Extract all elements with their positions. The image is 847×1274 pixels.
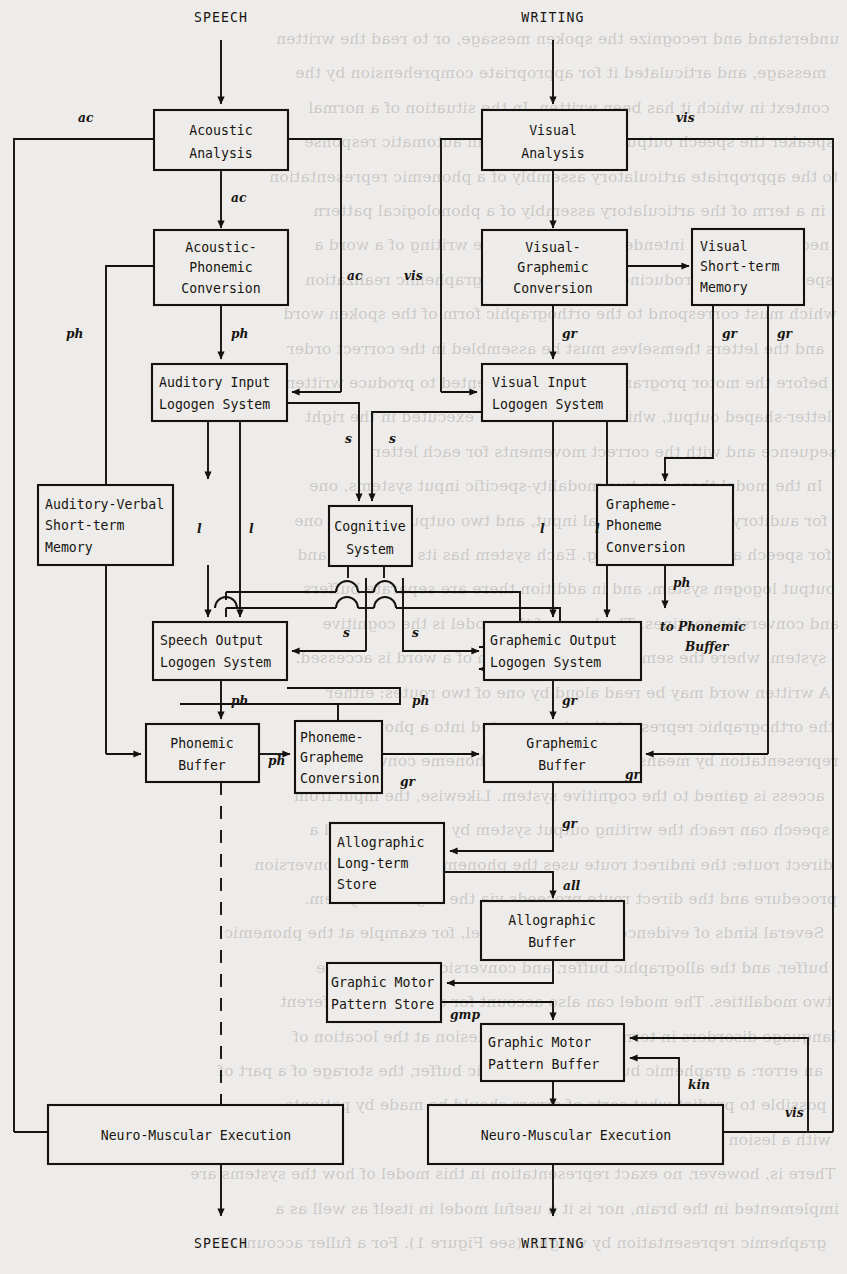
box-graphic-motor-pattern-store: Graphic Motor Pattern Store [327,963,441,1022]
label-writing-output: WRITING [521,1236,584,1251]
edge-allographic-buffer-to-gmp-store [447,960,553,983]
edge-vstm-to-gpc [665,305,713,481]
box-label: Phonemic [189,260,253,275]
edge-label-ph-aux: ph [66,327,83,341]
edge-label-gr-gb-down: gr [562,817,579,831]
box-label: Memory [700,280,748,295]
box-label: Logogen System [160,655,271,670]
box-label: Grapheme- [606,497,677,512]
edge-label-gr-go-out: gr [562,694,579,708]
box-label: Graphemic [517,260,588,275]
box-graphemic-output-logogen-system: Graphemic Output Logogen System [484,622,641,680]
box-label: Graphemic [526,736,597,751]
box-label: Store [337,877,377,892]
box-label: Allographic [508,913,595,928]
edge-auditory-s-to-cognitive [287,403,359,501]
box-neuro-muscular-execution-writing: Neuro-Muscular Execution [428,1105,723,1164]
edge-label-l-3: l [540,522,545,536]
edge-label-to-phonemic: to Phonemic [660,620,746,634]
edge-vis-left-rail [441,139,482,392]
box-graphic-motor-pattern-buffer: Graphic Motor Pattern Buffer [481,1024,624,1081]
box-label: Grapheme [300,750,364,765]
edge-label-gr-vstm-in: gr [625,768,642,782]
box-label: Short-term [700,259,779,274]
box-label: Acoustic [189,123,253,138]
label-writing-input: WRITING [521,10,584,25]
box-label: Buffer [178,758,226,773]
box-label: Visual [529,123,577,138]
edge-label-ph-gpc-out: ph [673,576,690,590]
box-label: Analysis [189,146,253,161]
hop-lower-2 [374,597,396,608]
edge-label-s-right-dn: s [412,626,419,640]
box-label: Phonemic [170,736,234,751]
box-label: System [346,542,394,557]
edge-s-to-graphemic-output [403,578,479,651]
edge-label-all: all [563,879,581,893]
box-visual-input-logogen-system: Visual Input Logogen System [482,364,627,421]
edge-label-vis-mid: vis [404,269,423,283]
edge-label-ph-top-right: ph [412,694,429,708]
box-label: Conversion [181,281,260,296]
box-acoustic-analysis: Acoustic Analysis [154,110,288,170]
box-label: Pattern Store [331,997,434,1012]
box-visual-analysis: Visual Analysis [482,110,627,170]
box-label: Neuro-Muscular Execution [101,1128,292,1143]
box-label: Phoneme [606,518,662,533]
box-acoustic-phonemic-conversion: Acoustic- Phonemic Conversion [154,230,288,305]
box-allographic-long-term-store: Allographic Long-term Store [330,823,444,903]
edge-label-ac-down1: ac [231,191,247,205]
box-label: Logogen System [159,397,270,412]
label-speech-output: SPEECH [194,1236,248,1251]
box-label: Conversion [606,540,685,555]
box-label: Speech Output [160,633,263,648]
edge-label-l-1: l [197,522,202,536]
edge-label-s-left-dn: s [343,626,350,640]
box-label: Logogen System [492,397,603,412]
box-label: Auditory Input [159,375,270,390]
box-label: Allographic [337,835,424,850]
box-label: Auditory-Verbal [45,497,164,512]
edge-label-ac-left: ac [78,111,94,125]
box-phonemic-buffer: Phonemic Buffer [146,724,259,782]
box-cognitive-system: Cognitive System [329,506,412,566]
box-auditory-verbal-short-term-memory: Auditory-Verbal Short-term Memory [38,485,173,565]
box-label: Acoustic- [185,240,256,255]
edge-label-vis-bottom: vis [785,1106,804,1120]
edge-ac-left-rail [14,139,154,1132]
hop-upper-2 [374,581,396,592]
hop-lower-1 [336,597,358,608]
edge-label-ph-speech-out: ph [231,694,248,708]
edge-label-l-4: l [595,522,600,536]
box-label: Logogen System [490,655,601,670]
edge-label-gr-pgc-out: gr [400,775,417,789]
edge-label-ac-mid: ac [347,269,363,283]
box-label: Neuro-Muscular Execution [481,1128,672,1143]
edge-graphemic-buffer-to-allographic-lts [450,782,553,851]
box-visual-short-term-memory: Visual Short-term Memory [692,229,804,305]
label-speech-input: SPEECH [194,10,248,25]
box-phoneme-grapheme-conversion: Phoneme- Grapheme Conversion [295,721,382,793]
box-auditory-input-logogen-system: Auditory Input Logogen System [152,364,287,421]
box-label: Pattern Buffer [488,1057,599,1072]
box-speech-output-logogen-system: Speech Output Logogen System [153,622,287,680]
edge-allographic-lts-to-buffer [444,872,553,898]
box-label: Analysis [521,146,585,161]
hop-upper-1 [336,581,358,592]
box-label: Buffer [528,935,576,950]
box-label: Long-term [337,856,409,871]
box-neuro-muscular-execution-speech: Neuro-Muscular Execution [48,1105,343,1164]
edge-label-kin: kin [688,1078,710,1092]
box-label: Graphic Motor [331,975,434,990]
box-grapheme-phoneme-conversion: Grapheme- Phoneme Conversion [597,485,733,565]
edge-label-to-phonemic-2: Buffer [684,640,730,654]
box-label: Graphemic Output [490,633,617,648]
edge-label-vis-right: vis [676,111,695,125]
box-label: Cognitive [334,519,406,534]
box-label: Short-term [45,518,124,533]
box-label: Visual [700,239,748,254]
edge-label-s-right-up: s [389,432,396,446]
box-label: Visual Input [492,375,587,390]
edge-label-ph-down1: ph [231,327,248,341]
edge-label-l-2: l [249,522,254,536]
